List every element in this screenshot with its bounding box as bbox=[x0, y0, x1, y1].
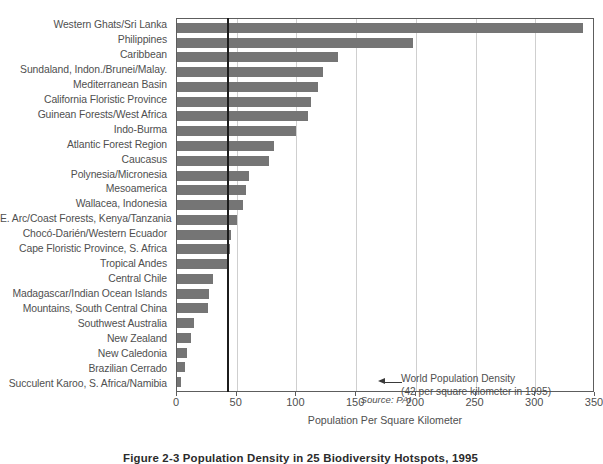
reference-line-arrow-icon bbox=[378, 377, 402, 387]
category-label: Tropical Andes bbox=[0, 257, 172, 272]
bar bbox=[177, 23, 583, 33]
category-label: Brazilian Cerrado bbox=[0, 362, 172, 377]
category-label: Caribbean bbox=[0, 48, 172, 63]
x-axis-tick-label: 50 bbox=[230, 396, 242, 408]
x-axis-title: Population Per Square Kilometer bbox=[176, 414, 594, 426]
category-label: E. Arc/Coast Forests, Kenya/Tanzania bbox=[0, 212, 172, 227]
bar bbox=[177, 67, 323, 77]
category-label: New Caledonia bbox=[0, 347, 172, 362]
bar bbox=[177, 156, 269, 166]
bar-row bbox=[177, 331, 593, 346]
category-label: Succulent Karoo, S. Africa/Namibia bbox=[0, 377, 172, 392]
bar bbox=[177, 333, 191, 343]
bar-row bbox=[177, 257, 593, 272]
bar bbox=[177, 111, 308, 121]
bar-series bbox=[177, 19, 593, 391]
category-label: Southwest Australia bbox=[0, 317, 172, 332]
category-label: Guinean Forests/West Africa bbox=[0, 108, 172, 123]
category-label: Atlantic Forest Region bbox=[0, 138, 172, 153]
x-axis-tick-labels: 050100150200250300350 bbox=[176, 396, 594, 412]
bar bbox=[177, 377, 181, 387]
category-label: Cape Floristic Province, S. Africa bbox=[0, 242, 172, 257]
category-label: Western Ghats/Sri Lanka bbox=[0, 18, 172, 33]
bar bbox=[177, 274, 213, 284]
bar bbox=[177, 171, 249, 181]
bar bbox=[177, 303, 208, 313]
category-label: Indo-Burma bbox=[0, 123, 172, 138]
bar bbox=[177, 126, 296, 136]
figure-caption: Figure 2-3 Population Density in 25 Biod… bbox=[0, 452, 601, 464]
bar bbox=[177, 52, 338, 62]
category-label: Caucasus bbox=[0, 153, 172, 168]
category-label: Polynesia/Micronesia bbox=[0, 168, 172, 183]
bar bbox=[177, 82, 318, 92]
bar-row bbox=[177, 65, 593, 80]
bar bbox=[177, 259, 227, 269]
category-axis-labels: Western Ghats/Sri LankaPhilippinesCaribb… bbox=[0, 18, 172, 392]
bar-row bbox=[177, 80, 593, 95]
bar-row bbox=[177, 183, 593, 198]
x-axis-tick-label: 100 bbox=[286, 396, 304, 408]
bar bbox=[177, 230, 231, 240]
bar-row bbox=[177, 316, 593, 331]
category-label: Madagascar/Indian Ocean Islands bbox=[0, 287, 172, 302]
x-axis-tick-label: 150 bbox=[346, 396, 364, 408]
category-label: New Zealand bbox=[0, 332, 172, 347]
bar bbox=[177, 289, 209, 299]
bar-row bbox=[177, 35, 593, 50]
reference-line-annotation-line1: World Population Density bbox=[401, 373, 551, 386]
bar bbox=[177, 200, 243, 210]
category-label: Chocó-Darién/Western Ecuador bbox=[0, 227, 172, 242]
world-population-density-reference-line bbox=[227, 18, 229, 392]
bar bbox=[177, 362, 185, 372]
bar-row bbox=[177, 50, 593, 65]
bar bbox=[177, 348, 187, 358]
category-label: Mesoamerica bbox=[0, 182, 172, 197]
bar-row bbox=[177, 286, 593, 301]
bar-row bbox=[177, 345, 593, 360]
category-label: Mountains, South Central China bbox=[0, 302, 172, 317]
bar-row bbox=[177, 227, 593, 242]
bar bbox=[177, 141, 274, 151]
bar-row bbox=[177, 242, 593, 257]
category-label: Wallacea, Indonesia bbox=[0, 197, 172, 212]
bar bbox=[177, 38, 413, 48]
bar-row bbox=[177, 272, 593, 287]
x-axis-tick-label: 0 bbox=[173, 396, 179, 408]
bar-row bbox=[177, 301, 593, 316]
x-axis-tick-label: 200 bbox=[406, 396, 424, 408]
category-label: Sundaland, Indon./Brunei/Malay. bbox=[0, 63, 172, 78]
category-label: Central Chile bbox=[0, 272, 172, 287]
bar bbox=[177, 97, 311, 107]
category-label: Mediterranean Basin bbox=[0, 78, 172, 93]
bar-row bbox=[177, 21, 593, 36]
bar-row bbox=[177, 139, 593, 154]
plot-area: World Population Density (42 per square … bbox=[176, 18, 594, 392]
category-label: California Floristic Province bbox=[0, 93, 172, 108]
x-axis-tick-label: 350 bbox=[585, 396, 603, 408]
bar-row bbox=[177, 153, 593, 168]
bar-row bbox=[177, 109, 593, 124]
bar bbox=[177, 244, 230, 254]
bar-row bbox=[177, 198, 593, 213]
bar-row bbox=[177, 212, 593, 227]
bar-row bbox=[177, 124, 593, 139]
bar bbox=[177, 318, 194, 328]
x-axis-tick-label: 300 bbox=[525, 396, 543, 408]
bar-row bbox=[177, 94, 593, 109]
bar bbox=[177, 185, 246, 195]
bar-row bbox=[177, 168, 593, 183]
x-axis-tick-label: 250 bbox=[465, 396, 483, 408]
category-label: Philippines bbox=[0, 33, 172, 48]
